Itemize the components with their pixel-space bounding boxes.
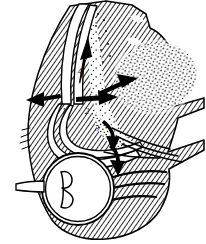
label-3: 3 (94, 123, 100, 133)
figure-canvas: 1 2 3 4 (0, 0, 206, 244)
label-1: 1 (62, 106, 67, 116)
optic-nerve (16, 181, 44, 192)
label-4: 4 (78, 66, 83, 76)
anatomical-figure: 1 2 3 4 (0, 0, 206, 244)
label-2: 2 (85, 106, 90, 116)
